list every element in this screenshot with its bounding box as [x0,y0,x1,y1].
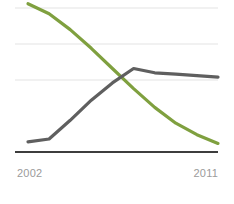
gridlines-group [15,8,218,80]
x-axis-tick-labels: 2002 2011 [0,166,234,186]
series-line-declining [28,4,218,144]
x-tick-label-end: 2011 [194,166,218,180]
x-tick-label-start: 2002 [17,166,42,180]
line-chart: 2002 2011 [0,0,234,204]
